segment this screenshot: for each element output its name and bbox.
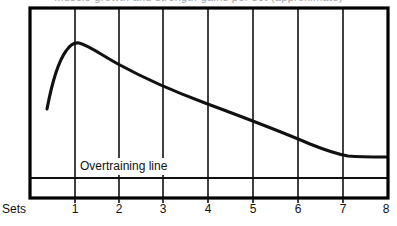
x-tick-label-4: 4 — [199, 202, 217, 216]
x-tick-label-2: 2 — [110, 202, 128, 216]
chart-plot-area — [0, 0, 397, 226]
chart-figure: Muscle growth and strength gains per set… — [0, 0, 397, 226]
x-tick-label-6: 6 — [289, 202, 307, 216]
x-tick-label-1: 1 — [66, 202, 84, 216]
x-tick-label-8: 8 — [377, 202, 395, 216]
x-tick-label-5: 5 — [244, 202, 262, 216]
overtraining-line-label: Overtraining line — [78, 159, 169, 173]
x-tick-label-3: 3 — [154, 202, 172, 216]
x-axis-caption: Sets — [2, 202, 26, 216]
x-tick-label-7: 7 — [334, 202, 352, 216]
